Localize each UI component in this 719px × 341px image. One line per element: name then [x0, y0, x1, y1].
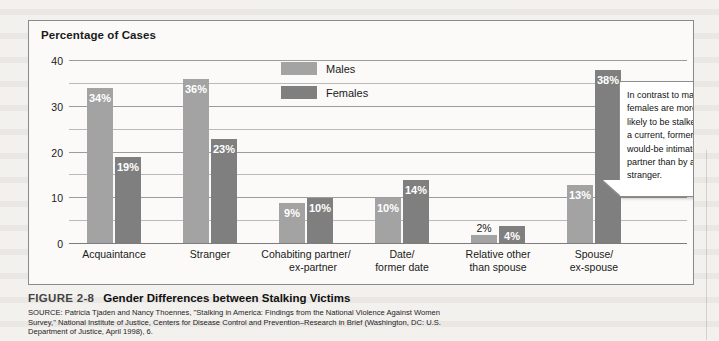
legend-swatch-males — [281, 62, 317, 75]
x-label-line1: Relative other — [466, 248, 531, 260]
bar-females-3: 14% — [403, 180, 429, 244]
page-column-rule — [706, 150, 707, 340]
x-label-line1: Date/ — [389, 248, 414, 260]
plot-area: 010203040 34%19%Acquaintance36%23%Strang… — [69, 61, 687, 244]
bar-group: 2%4%Relative otherthan spouse — [471, 61, 525, 244]
bar-value-label: 36% — [183, 83, 209, 95]
bar-males-3: 10% — [375, 198, 401, 244]
bar-value-label: 4% — [499, 230, 525, 242]
figure-box: Percentage of Cases 010203040 34%19%Acqu… — [28, 20, 694, 285]
y-tick-label-30: 30 — [51, 101, 63, 113]
figure-title: Gender Differences between Stalking Vict… — [103, 292, 350, 304]
legend-label-males: Males — [326, 63, 355, 75]
bar-group: 10%14%Date/former date — [375, 61, 429, 244]
x-axis-category-label: Spouse/ex-spouse — [534, 248, 654, 273]
bar-value-label: 10% — [375, 202, 401, 214]
x-label-line1: Spouse/ — [575, 248, 614, 260]
callout-tail-icon — [603, 180, 621, 196]
bar-males-0: 34% — [87, 88, 113, 244]
bar-group: 13%38%Spouse/ex-spouse — [567, 61, 621, 244]
x-axis-line — [69, 243, 687, 244]
bar-value-label: 38% — [595, 74, 621, 86]
bar-value-label: 13% — [567, 189, 593, 201]
y-tick-label-40: 40 — [51, 55, 63, 67]
callout-box: In contrast to males, females are more l… — [619, 81, 694, 197]
y-tick-label-10: 10 — [51, 192, 63, 204]
bar-females-0: 19% — [115, 157, 141, 244]
x-label-line1: Acquaintance — [82, 248, 146, 260]
chart-axis-title: Percentage of Cases — [41, 29, 156, 41]
figure-number: FIGURE 2-8 — [28, 292, 94, 304]
bar-males-1: 36% — [183, 79, 209, 244]
x-label-line2: ex-spouse — [534, 261, 654, 274]
textbook-page: Percentage of Cases 010203040 34%19%Acqu… — [0, 0, 719, 341]
legend-item-females: Females — [281, 85, 368, 100]
bar-value-label: 9% — [279, 207, 305, 219]
x-label-line1: Stranger — [190, 248, 230, 260]
bar-males-5: 13% — [567, 185, 593, 244]
bar-group: 34%19%Acquaintance — [87, 61, 141, 244]
legend: Males Females — [281, 61, 368, 109]
bar-females-2: 10% — [307, 198, 333, 244]
bar-value-label: 10% — [307, 202, 333, 214]
bar-value-label: 14% — [403, 184, 429, 196]
bar-value-label: 19% — [115, 161, 141, 173]
bar-value-label: 23% — [211, 143, 237, 155]
bar-males-2: 9% — [279, 203, 305, 244]
figure-source: SOURCE: Patricia Tjaden and Nancy Thoenn… — [28, 308, 458, 337]
y-tick-label-20: 20 — [51, 147, 63, 159]
bar-females-1: 23% — [211, 139, 237, 244]
legend-swatch-females — [281, 86, 317, 99]
bar-value-label: 2% — [471, 222, 497, 234]
figure-caption: FIGURE 2-8 Gender Differences between St… — [28, 292, 694, 337]
legend-item-males: Males — [281, 61, 368, 76]
callout-text: In contrast to males, females are more l… — [627, 90, 694, 180]
bar-females-5: 38% — [595, 70, 621, 244]
legend-label-females: Females — [326, 87, 368, 99]
bar-value-label: 34% — [87, 92, 113, 104]
bar-group: 36%23%Stranger — [183, 61, 237, 244]
bar-females-4: 4% — [499, 226, 525, 244]
bar-groups: 34%19%Acquaintance36%23%Stranger9%10%Coh… — [69, 61, 687, 244]
